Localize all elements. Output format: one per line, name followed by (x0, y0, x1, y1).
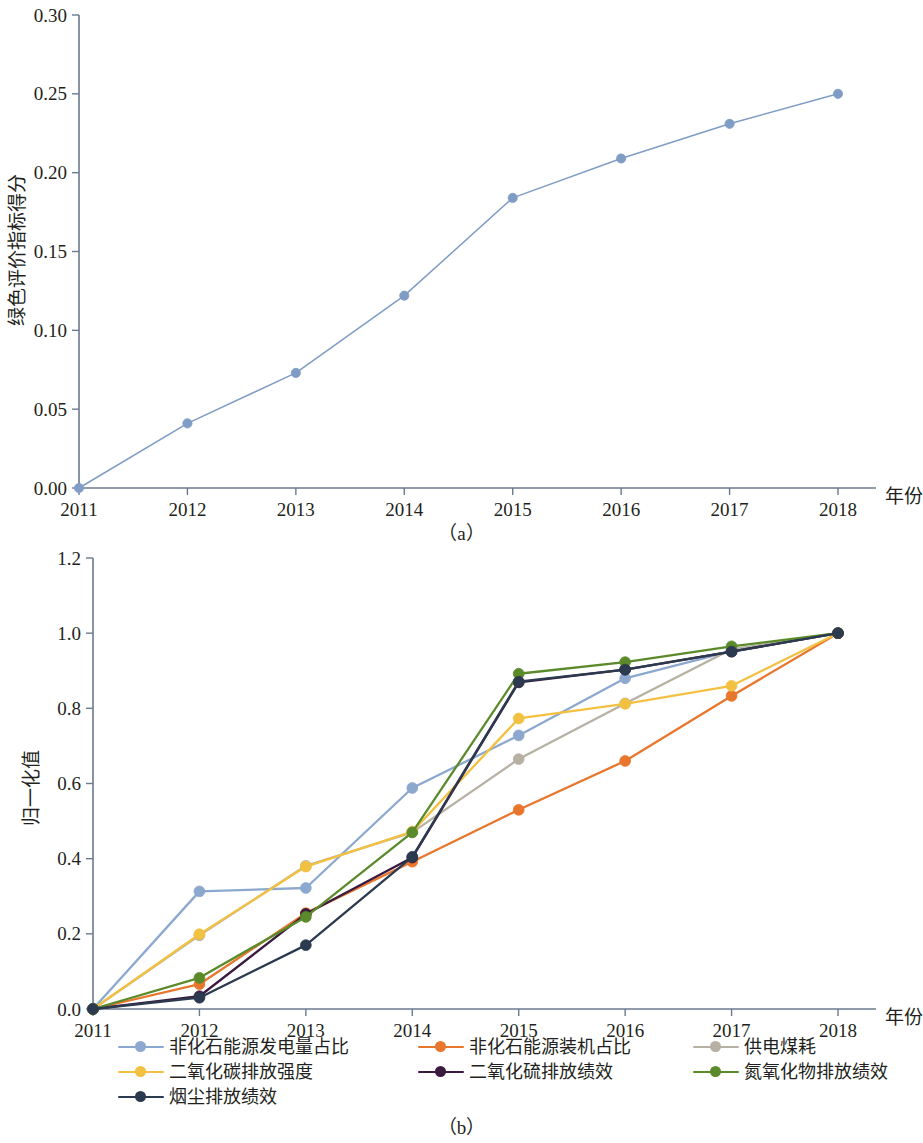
figure-root: 0.000.050.100.150.200.250.30 20112012201… (0, 0, 923, 1143)
series-line (93, 633, 838, 1009)
series-data-point (833, 89, 842, 98)
chart-b-x-ticks (93, 1009, 838, 1016)
x-tick-label: 2015 (494, 499, 532, 520)
series-data-point (183, 419, 192, 428)
series-data-point (513, 676, 524, 687)
legend-marker-icon (118, 1065, 164, 1079)
chart-a-svg: 0.000.050.100.150.200.250.30 20112012201… (0, 0, 923, 550)
legend-label: 非化石能源装机占比 (469, 1038, 631, 1056)
x-tick-label: 2016 (602, 499, 640, 520)
chart-b-svg: 0.00.20.40.60.81.01.2 201120122013201420… (0, 548, 923, 1048)
series-line (93, 633, 838, 1009)
legend-label: 烟尘排放绩效 (169, 1088, 277, 1106)
series-data-point (194, 929, 205, 940)
chart-b-series-group (88, 628, 844, 1015)
chart-a-x-tick-labels: 20112012201320142015201620172018 (60, 499, 857, 520)
y-tick-label: 0.10 (34, 320, 67, 341)
y-tick-label: 0.6 (57, 773, 81, 794)
y-tick-label: 0.05 (34, 399, 67, 420)
series-data-point (513, 804, 524, 815)
series-data-point (300, 883, 311, 894)
y-tick-label: 0.15 (34, 241, 67, 262)
chart-a-y-axis-title: 绿色评价指标得分 (7, 174, 28, 326)
chart-b-legend: 非化石能源发电量占比非化石能源装机占比供电煤耗二氧化碳排放强度二氧化硫排放绩效氮… (118, 1034, 918, 1109)
series-data-point (620, 664, 631, 675)
legend-item-6[interactable]: 氮氧化物排放绩效 (693, 1063, 888, 1081)
y-tick-label: 0.8 (57, 698, 81, 719)
legend-label: 二氧化硫排放绩效 (469, 1063, 613, 1081)
series-data-point (513, 730, 524, 741)
y-tick-label: 1.2 (57, 548, 81, 569)
series-data-point (407, 827, 418, 838)
chart-b-x-axis-title: 年份 (885, 1007, 923, 1028)
legend-row: 二氧化碳排放强度二氧化硫排放绩效氮氧化物排放绩效 (118, 1059, 918, 1084)
series-data-point (400, 291, 409, 300)
chart-b-y-axis-title: 归一化值 (21, 750, 42, 826)
y-tick-label: 0.0 (57, 999, 81, 1020)
y-tick-label: 0.25 (34, 83, 67, 104)
y-tick-label: 1.0 (57, 623, 81, 644)
chart-panel-a: 0.000.050.100.150.200.250.30 20112012201… (0, 0, 923, 550)
series-data-point (300, 940, 311, 951)
legend-item-3[interactable]: 供电煤耗 (693, 1038, 816, 1056)
series-line (93, 633, 838, 1009)
legend-item-2[interactable]: 非化石能源装机占比 (418, 1038, 693, 1056)
series-data-point (726, 691, 737, 702)
chart-a-x-ticks (79, 488, 838, 495)
legend-item-4[interactable]: 二氧化碳排放强度 (118, 1063, 418, 1081)
series-data-point (508, 193, 517, 202)
series-data-point (513, 713, 524, 724)
series-data-point (620, 756, 631, 767)
series-data-point (300, 861, 311, 872)
series-data-point (74, 483, 83, 492)
x-tick-label: 2011 (60, 499, 97, 520)
series-data-point (726, 680, 737, 691)
legend-label: 非化石能源发电量占比 (169, 1038, 349, 1056)
series-line (93, 633, 838, 1009)
caption-panel-b: （b） (0, 1112, 923, 1139)
x-tick-label: 2014 (385, 499, 424, 520)
series-data-point (620, 698, 631, 709)
caption-panel-a: （a） (0, 518, 923, 545)
series-data-point (407, 851, 418, 862)
series-line (93, 633, 838, 1009)
x-tick-label: 2017 (711, 499, 749, 520)
series-data-point (513, 754, 524, 765)
series-line (79, 94, 838, 488)
y-tick-label: 0.30 (34, 5, 67, 26)
series-data-point (291, 368, 300, 377)
x-tick-label: 2012 (168, 499, 206, 520)
series-data-point (300, 912, 311, 923)
series-data-point (407, 783, 418, 794)
legend-row: 烟尘排放绩效 (118, 1084, 918, 1109)
legend-marker-icon (118, 1040, 164, 1054)
y-tick-label: 0.4 (57, 848, 81, 869)
legend-label: 氮氧化物排放绩效 (744, 1063, 888, 1081)
legend-row: 非化石能源发电量占比非化石能源装机占比供电煤耗 (118, 1034, 918, 1059)
x-tick-label: 2011 (74, 1020, 111, 1041)
legend-item-5[interactable]: 二氧化硫排放绩效 (418, 1063, 693, 1081)
series-data-point (194, 992, 205, 1003)
legend-marker-icon (418, 1040, 464, 1054)
legend-marker-icon (418, 1065, 464, 1079)
chart-b-y-tick-labels: 0.00.20.40.60.81.01.2 (57, 548, 81, 1020)
legend-marker-icon (118, 1090, 164, 1104)
series-data-point (194, 972, 205, 983)
y-tick-label: 0.2 (57, 923, 81, 944)
chart-a-y-ticks (72, 15, 79, 488)
legend-label: 二氧化碳排放强度 (169, 1063, 313, 1081)
legend-item-1[interactable]: 非化石能源发电量占比 (118, 1038, 418, 1056)
x-tick-label: 2013 (277, 499, 315, 520)
series-data-point (194, 886, 205, 897)
series-data-point (88, 1004, 99, 1015)
legend-marker-icon (693, 1065, 739, 1079)
series-data-point (725, 119, 734, 128)
legend-label: 供电煤耗 (744, 1038, 816, 1056)
y-tick-label: 0.00 (34, 478, 67, 499)
x-tick-label: 2018 (819, 499, 857, 520)
legend-marker-icon (693, 1040, 739, 1054)
chart-a-axis-lines (79, 15, 876, 488)
chart-a-series-group (74, 89, 842, 492)
legend-item-7[interactable]: 烟尘排放绩效 (118, 1088, 418, 1106)
series-line (93, 633, 838, 1009)
